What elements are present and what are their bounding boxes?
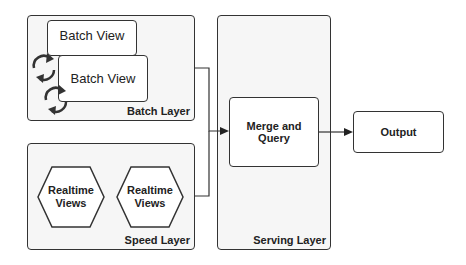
- arrowhead-icon: [344, 128, 353, 136]
- serving-layer-label: Serving Layer: [253, 234, 326, 246]
- output-node: Output: [353, 111, 444, 153]
- batch-view-2: Batch View: [58, 55, 148, 102]
- output-label: Output: [354, 112, 443, 152]
- merge-and-query-label: Merge and Query: [230, 98, 318, 166]
- batch-view-1-label: Batch View: [48, 21, 136, 55]
- batch-layer-label: Batch Layer: [127, 105, 190, 117]
- speed-layer-label: Speed Layer: [125, 234, 190, 246]
- batch-view-2-label: Batch View: [59, 56, 147, 101]
- edge-speed-to-merge: [195, 131, 209, 196]
- realtime-view-1-label: RealtimeViews: [44, 175, 98, 219]
- merge-and-query-node: Merge and Query: [229, 97, 319, 167]
- realtime-view-2-label: RealtimeViews: [123, 175, 177, 219]
- batch-view-1: Batch View: [47, 20, 137, 56]
